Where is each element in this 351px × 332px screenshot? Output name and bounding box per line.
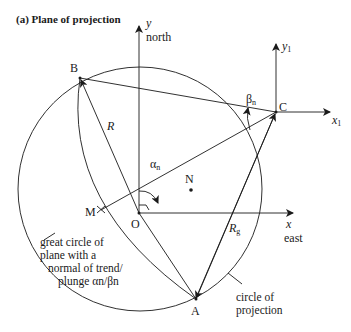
y-axis-label: y (146, 17, 151, 29)
line-mc (101, 112, 276, 210)
great-circle-note-line1: great circle of (40, 236, 104, 249)
radius-r (81, 80, 139, 213)
circle-projection-note-line2: projection (236, 304, 283, 317)
radius-rg-label: Rg (229, 222, 240, 238)
east-label: east (284, 232, 303, 244)
line-oa (139, 213, 196, 299)
north-label: north (146, 31, 171, 43)
point-c-label: C (279, 101, 287, 113)
figure-title: (a) Plane of projection (16, 13, 121, 25)
point-o-label: O (131, 218, 140, 230)
x1-axis-label: x1 (332, 114, 341, 130)
diagram-canvas (0, 0, 351, 332)
point-a-label: A (191, 305, 200, 317)
point-n-label: N (185, 173, 194, 185)
point-b-label: B (70, 62, 78, 74)
point-m-label: M (85, 206, 96, 218)
great-circle-note-line4: plunge αn/βn (58, 275, 119, 288)
alpha-arc (139, 191, 158, 203)
circle-projection-note-line1: circle of (236, 291, 274, 304)
y1-axis-label: y1 (282, 40, 291, 56)
radius-r-label: R (107, 120, 114, 132)
beta-n-label: βn (246, 93, 256, 109)
point-n-dot (189, 188, 193, 192)
great-circle-note-line2: plane with a (40, 249, 96, 262)
alpha-n-label: αn (150, 158, 160, 174)
x-axis-label: x (286, 218, 291, 230)
great-circle-note-line3: normal of trend/ (48, 262, 123, 275)
